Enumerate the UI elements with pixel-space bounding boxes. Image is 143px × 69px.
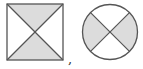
square-figure bbox=[7, 4, 63, 60]
diagram-canvas: , bbox=[0, 0, 143, 69]
circle-figure bbox=[82, 5, 137, 60]
comma-separator: , bbox=[68, 51, 72, 66]
square-top-shaded-region bbox=[7, 4, 63, 32]
square-bottom-shaded-region bbox=[7, 32, 63, 60]
